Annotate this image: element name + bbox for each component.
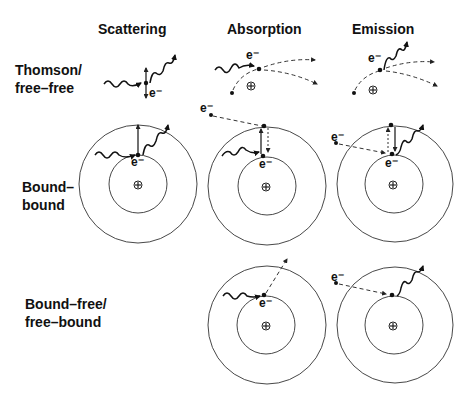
emitted-photon-wave-icon <box>396 125 423 155</box>
emitted-photon-wave-icon <box>397 266 423 296</box>
electron-label: e⁻ <box>131 155 144 169</box>
free-electron-dot-icon <box>334 141 338 145</box>
nucleus-icon <box>247 82 255 90</box>
column-header-emission: Emission <box>352 21 414 37</box>
nucleus-icon <box>389 181 397 189</box>
electron-start-dot-icon <box>352 91 356 95</box>
cell-bound-bound-scattering: e⁻ <box>79 125 197 243</box>
electron-label: e⁻ <box>259 296 272 310</box>
row-label-bound-free-line1: Bound–free/ <box>25 296 107 312</box>
nucleus-icon <box>369 86 377 94</box>
row-label-bound-bound-line1: Bound– <box>22 179 74 195</box>
electron-label: e⁻ <box>149 86 162 100</box>
electron-dot-icon <box>144 81 148 85</box>
incoming-photon-wave-icon <box>222 147 259 156</box>
electron-start-dot-icon <box>230 91 234 95</box>
electron-label: e⁻ <box>246 48 259 62</box>
free-electron-path-icon <box>213 116 262 126</box>
cell-free-bound-emission: e⁻ <box>331 266 453 383</box>
captured-electron-path-icon <box>339 284 386 294</box>
incoming-photon-wave-icon <box>104 81 141 87</box>
cell-thomson-emission: e⁻ <box>352 42 437 95</box>
column-header-absorption: Absorption <box>227 21 302 37</box>
electron-dot-icon <box>390 293 395 298</box>
nucleus-icon <box>134 181 142 189</box>
row-label-bound-bound-line2: bound <box>22 197 65 213</box>
cell-bound-bound-emission: e⁻ e⁻ <box>331 123 453 242</box>
excited-electron-dot-icon <box>262 124 267 129</box>
column-header-scattering: Scattering <box>98 21 166 37</box>
scattered-path-2-icon <box>264 70 317 84</box>
excited-electron-dot-icon <box>389 123 394 128</box>
free-electron-dot-icon <box>209 113 213 117</box>
cell-thomson-absorption: e⁻ <box>215 48 317 95</box>
row-label-thomson-line1: Thomson/ <box>15 62 82 78</box>
free-electron-dot-icon <box>334 281 338 285</box>
row-label-bound-free-line2: free–bound <box>25 314 101 330</box>
radiation-processes-diagram: Scattering Absorption Emission Thomson/ … <box>0 0 470 403</box>
nucleus-icon <box>262 183 270 191</box>
electron-label: e⁻ <box>259 157 272 171</box>
nucleus-icon <box>262 322 270 330</box>
scattered-path-1-icon <box>264 60 315 67</box>
scattered-path-2-icon <box>386 71 437 86</box>
scattered-path-1-icon <box>386 62 434 68</box>
incoming-photon-wave-icon <box>95 152 135 158</box>
electron-label: e⁻ <box>385 156 398 170</box>
emitted-photon-wave-icon <box>384 42 407 70</box>
cell-bound-free-absorption: e⁻ <box>208 259 326 384</box>
outgoing-photon-wave-icon <box>143 125 168 155</box>
cell-thomson-scattering: e⁻ <box>104 55 175 100</box>
electron-dot-icon <box>378 68 383 73</box>
cell-bound-bound-absorption: e⁻ e⁻ <box>200 101 326 245</box>
ejected-electron-path-icon <box>266 259 287 293</box>
incoming-photon-wave-icon <box>215 64 254 73</box>
outgoing-photon-wave-icon <box>150 55 175 83</box>
free-electron-path-icon <box>339 144 385 153</box>
electron-dot-icon <box>257 67 262 72</box>
row-label-thomson-line2: free–free <box>15 80 74 96</box>
incoming-electron-label: e⁻ <box>200 101 213 115</box>
nucleus-icon <box>389 322 397 330</box>
electron-label: e⁻ <box>368 51 381 65</box>
